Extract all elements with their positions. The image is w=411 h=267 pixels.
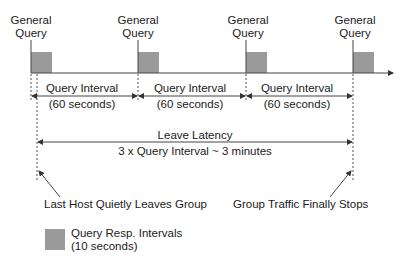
query-response-box bbox=[353, 52, 374, 73]
query-response-box bbox=[31, 52, 52, 73]
query-response-box bbox=[138, 52, 159, 73]
traffic-stops-annotation: Group Traffic Finally Stops bbox=[233, 198, 368, 211]
stop-pointer-arrow bbox=[330, 171, 351, 197]
query-tick-lines bbox=[31, 40, 353, 73]
leave-pointer-arrow bbox=[39, 171, 60, 197]
leave-latency-label: Leave Latency 3 x Query Interval ~ 3 min… bbox=[118, 129, 272, 158]
interval-label: Query Interval (60 seconds) bbox=[46, 82, 118, 111]
query-response-box bbox=[246, 52, 267, 73]
query-label: GeneralQuery bbox=[118, 14, 159, 40]
query-label: GeneralQuery bbox=[335, 14, 376, 40]
query-label: GeneralQuery bbox=[228, 14, 269, 40]
query-label: GeneralQuery bbox=[11, 14, 52, 40]
interval-label: Query Interval (60 seconds) bbox=[154, 82, 226, 111]
legend-swatch bbox=[45, 229, 65, 250]
legend-label: Query Resp. Intervals (10 seconds) bbox=[71, 227, 182, 253]
last-host-leaves-annotation: Last Host Quietly Leaves Group bbox=[44, 198, 207, 211]
interval-label: Query Interval (60 seconds) bbox=[261, 82, 333, 111]
